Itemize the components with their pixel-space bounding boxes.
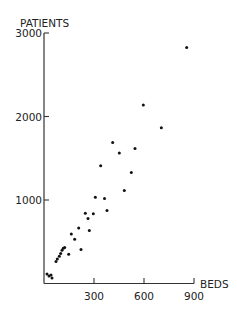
data-point (123, 189, 126, 192)
data-point (55, 260, 58, 263)
data-point (118, 152, 121, 155)
data-point (87, 217, 90, 220)
data-point (160, 126, 163, 129)
data-point (67, 253, 70, 256)
data-point (51, 276, 54, 279)
data-point (56, 257, 59, 260)
data-point (103, 197, 106, 200)
data-point (111, 141, 114, 144)
data-point (84, 212, 87, 215)
y-tick-label: 2000 (15, 111, 42, 123)
data-point (185, 46, 188, 49)
scatter-chart: 100020003000 300600900 PATIENTS BEDS (0, 0, 237, 313)
axes (44, 33, 194, 284)
y-axis-label: PATIENTS (20, 17, 69, 29)
data-point (70, 232, 73, 235)
data-point (92, 212, 95, 215)
data-point (80, 248, 83, 251)
x-axis-label: BEDS (200, 278, 229, 290)
x-tick-label: 900 (184, 290, 204, 302)
data-point (106, 209, 109, 212)
y-tick-label: 1000 (15, 194, 42, 206)
data-point (50, 273, 53, 276)
data-point (94, 196, 97, 199)
data-point (99, 164, 102, 167)
x-tick-label: 600 (134, 290, 154, 302)
data-point (130, 171, 133, 174)
data-point (59, 252, 62, 255)
data-point (63, 246, 66, 249)
data-point (142, 103, 145, 106)
data-point (73, 238, 76, 241)
data-points (46, 46, 189, 279)
data-point (134, 147, 137, 150)
x-tick-label: 300 (84, 290, 104, 302)
data-point (88, 229, 91, 232)
x-ticks: 300600900 (84, 278, 204, 302)
data-point (58, 255, 61, 258)
data-point (77, 226, 80, 229)
